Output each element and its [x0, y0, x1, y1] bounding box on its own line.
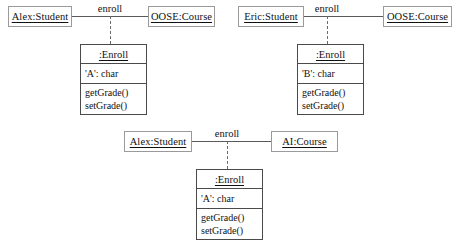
association-class-enroll-top-left[interactable]: :Enroll 'A': char getGrade() setGrade(): [80, 44, 147, 115]
link-label-top-right: enroll: [297, 3, 357, 14]
object-node-oose-course-top-right[interactable]: OOSE:Course: [383, 6, 452, 27]
association-class-attribute-compartment: 'A': char: [81, 64, 146, 84]
object-node-eric-student-top-right[interactable]: Eric:Student: [238, 6, 304, 27]
association-class-attribute-compartment: 'B': char: [298, 64, 363, 84]
link-label-bottom: enroll: [197, 128, 257, 139]
association-class-title-compartment: :Enroll: [197, 170, 262, 189]
association-class-enroll-bottom[interactable]: :Enroll 'A': char getGrade() setGrade(): [196, 169, 263, 240]
link-line-bottom: [192, 141, 271, 142]
association-class-title-compartment: :Enroll: [81, 45, 146, 64]
operation-row: setGrade(): [201, 225, 262, 238]
object-label: OOSE:Course: [151, 11, 212, 22]
association-class-title: :Enroll: [316, 49, 345, 60]
association-class-title: :Enroll: [99, 49, 128, 60]
operation-row: getGrade(): [302, 87, 363, 100]
assoc-class-dashed-line-top-right: [327, 16, 328, 44]
association-class-operation-compartment: getGrade() setGrade(): [81, 84, 146, 114]
object-node-alex-student-bottom[interactable]: Alex:Student: [124, 131, 192, 152]
association-class-attribute-compartment: 'A': char: [197, 189, 262, 209]
operation-row: setGrade(): [302, 100, 363, 113]
object-label: Alex:Student: [130, 136, 187, 147]
link-label-top-left: enroll: [80, 3, 140, 14]
association-class-operation-compartment: getGrade() setGrade(): [197, 209, 262, 239]
object-node-oose-course-top-left[interactable]: OOSE:Course: [148, 6, 215, 27]
uml-object-diagram-canvas: enroll Alex:Student OOSE:Course :Enroll …: [0, 0, 459, 252]
object-node-ai-course-bottom[interactable]: AI:Course: [271, 131, 338, 152]
object-label: OOSE:Course: [387, 11, 448, 22]
association-class-operation-compartment: getGrade() setGrade(): [298, 84, 363, 114]
operation-row: setGrade(): [85, 100, 146, 113]
association-class-enroll-top-right[interactable]: :Enroll 'B': char getGrade() setGrade(): [297, 44, 364, 115]
operation-row: getGrade(): [85, 87, 146, 100]
association-class-title-compartment: :Enroll: [298, 45, 363, 64]
assoc-class-dashed-line-top-left: [110, 16, 111, 44]
attribute-row: 'B': char: [302, 68, 335, 79]
operation-row: getGrade(): [201, 212, 262, 225]
attribute-row: 'A': char: [85, 68, 118, 79]
object-node-alex-student-top-left[interactable]: Alex:Student: [8, 6, 72, 27]
link-line-top-right: [304, 16, 383, 17]
object-label: Alex:Student: [12, 11, 69, 22]
assoc-class-dashed-line-bottom: [227, 141, 228, 169]
object-label: AI:Course: [282, 136, 327, 147]
attribute-row: 'A': char: [201, 193, 234, 204]
association-class-title: :Enroll: [215, 174, 244, 185]
object-label: Eric:Student: [244, 11, 298, 22]
